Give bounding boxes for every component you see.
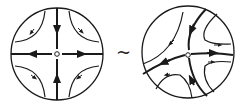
right-fixed-point [186,53,191,58]
left-phase-portrait [11,8,103,100]
left-fixed-point [55,52,60,57]
equivalence-symbol: ~ [116,41,131,62]
saddle-equivalence-diagram: ~ [0,0,244,105]
right-phase-portrait [142,6,234,98]
